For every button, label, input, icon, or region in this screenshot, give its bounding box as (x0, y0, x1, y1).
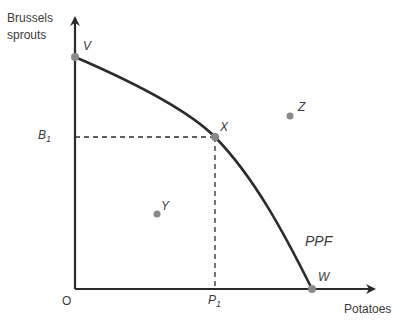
label-w: W (318, 270, 329, 284)
b1-label: B1 (38, 128, 51, 144)
p1-label-main: P (208, 293, 216, 307)
point-z (287, 113, 294, 120)
p1-label: P1 (208, 293, 221, 309)
p1-label-sub: 1 (216, 299, 221, 309)
label-x: X (220, 120, 228, 134)
point-w (308, 285, 316, 293)
ppf-diagram (0, 0, 401, 327)
b1-label-main: B (38, 128, 46, 142)
origin-label: O (62, 294, 71, 308)
ppf-label: PPF (305, 233, 332, 249)
x-axis-title: Potatoes (344, 302, 391, 316)
b1-label-sub: 1 (46, 134, 51, 144)
point-v (71, 53, 79, 61)
point-y (154, 211, 161, 218)
ppf-curve (75, 57, 312, 289)
label-z: Z (298, 100, 305, 114)
y-axis-title-line2: sprouts (7, 27, 53, 44)
label-y: Y (161, 199, 169, 213)
point-x (211, 133, 219, 141)
label-v: V (83, 39, 91, 53)
y-axis-title-line1: Brussels (7, 10, 53, 27)
y-axis-title: Brussels sprouts (7, 10, 53, 44)
